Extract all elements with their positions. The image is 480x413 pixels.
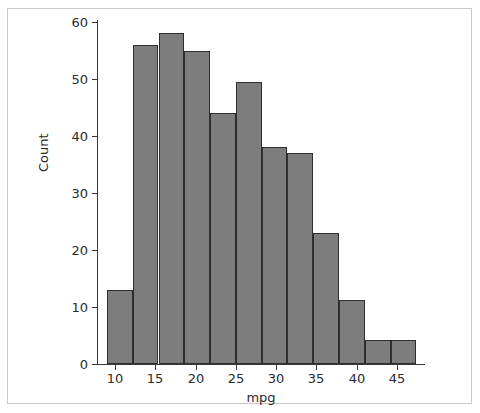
histogram-bar bbox=[184, 51, 210, 365]
x-tick-label-25: 25 bbox=[216, 372, 256, 385]
x-tick-label-15: 15 bbox=[135, 372, 175, 385]
histogram-bar bbox=[236, 82, 262, 364]
x-tick-40 bbox=[357, 365, 358, 370]
x-tick-20 bbox=[196, 365, 197, 370]
x-axis-line bbox=[97, 364, 425, 365]
histogram-bar bbox=[313, 233, 339, 364]
y-tick-40 bbox=[92, 136, 97, 137]
y-tick-label-20: 20 bbox=[28, 244, 88, 257]
histogram-bar bbox=[365, 340, 391, 364]
x-tick-label-45: 45 bbox=[377, 372, 417, 385]
x-tick-10 bbox=[115, 365, 116, 370]
x-tick-label-35: 35 bbox=[296, 372, 336, 385]
x-tick-15 bbox=[155, 365, 156, 370]
y-tick-0 bbox=[92, 364, 97, 365]
y-tick-30 bbox=[92, 193, 97, 194]
histogram-bar bbox=[391, 340, 417, 364]
x-tick-label-40: 40 bbox=[337, 372, 377, 385]
x-tick-45 bbox=[397, 365, 398, 370]
y-tick-50 bbox=[92, 79, 97, 80]
y-tick-label-30: 30 bbox=[28, 187, 88, 200]
y-axis-label: Count bbox=[36, 133, 51, 172]
y-tick-label-10: 10 bbox=[28, 301, 88, 314]
y-tick-label-0: 0 bbox=[28, 358, 88, 371]
histogram-bar bbox=[262, 147, 288, 364]
histogram-bar bbox=[107, 290, 133, 364]
x-axis-label: mpg bbox=[97, 390, 425, 405]
y-tick-label-50: 50 bbox=[28, 73, 88, 86]
x-tick-25 bbox=[236, 365, 237, 370]
x-tick-35 bbox=[316, 365, 317, 370]
y-tick-60 bbox=[92, 22, 97, 23]
histogram-figure: 60 50 40 30 20 10 0 10 15 20 25 30 35 40… bbox=[0, 0, 480, 413]
histogram-bar bbox=[287, 153, 313, 364]
x-tick-30 bbox=[276, 365, 277, 370]
y-axis-line bbox=[97, 20, 98, 365]
y-tick-10 bbox=[92, 307, 97, 308]
y-tick-label-60: 60 bbox=[28, 16, 88, 29]
y-tick-20 bbox=[92, 250, 97, 251]
histogram-bar bbox=[133, 45, 159, 364]
histogram-bar bbox=[210, 113, 236, 364]
x-tick-label-30: 30 bbox=[256, 372, 296, 385]
plot-area: 60 50 40 30 20 10 0 10 15 20 25 30 35 40… bbox=[0, 0, 480, 413]
histogram-bar bbox=[159, 33, 185, 364]
x-tick-label-20: 20 bbox=[176, 372, 216, 385]
histogram-bar bbox=[339, 300, 365, 364]
x-tick-label-10: 10 bbox=[95, 372, 135, 385]
